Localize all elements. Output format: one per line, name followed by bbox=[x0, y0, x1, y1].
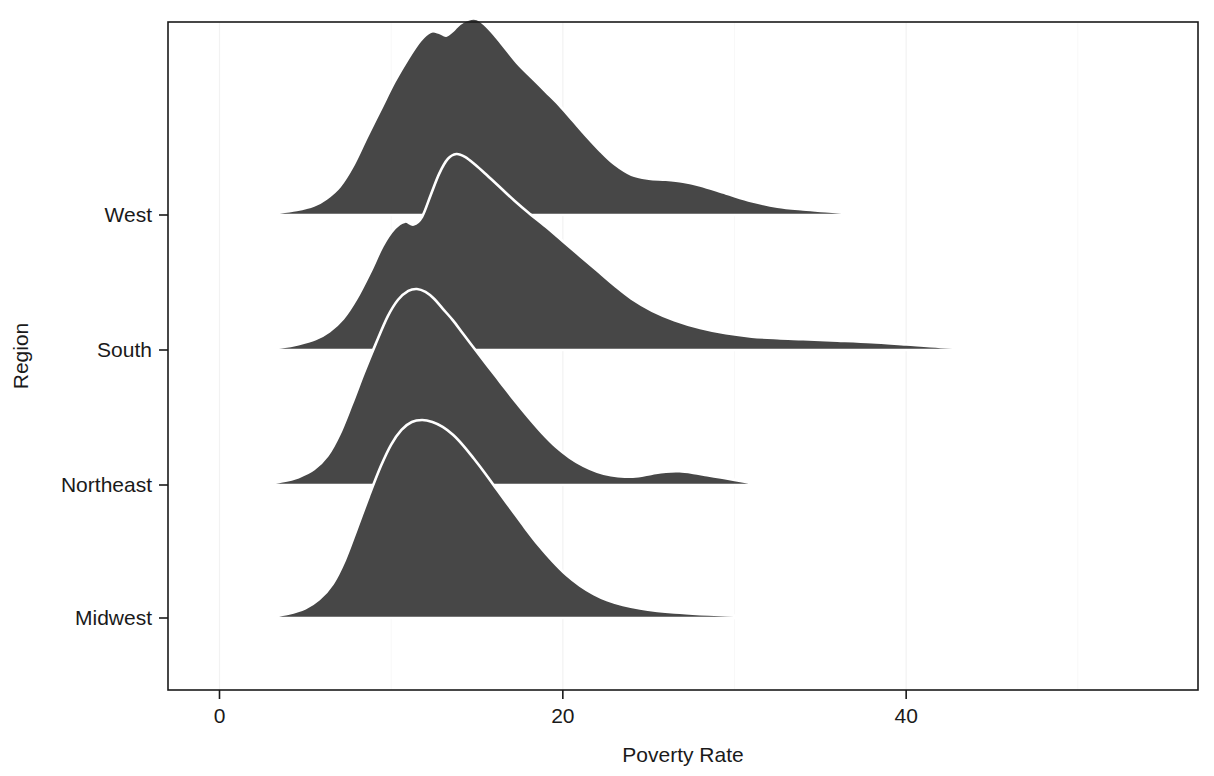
y-tick-label-south: South bbox=[97, 338, 152, 361]
x-axis-title: Poverty Rate bbox=[622, 743, 743, 766]
y-tick-label-midwest: Midwest bbox=[75, 606, 152, 629]
x-axis-ticks-group bbox=[220, 690, 907, 699]
x-axis-tick-labels-group: 02040 bbox=[214, 704, 918, 727]
x-tick-label-20: 20 bbox=[551, 704, 574, 727]
y-tick-label-northeast: Northeast bbox=[61, 473, 152, 496]
y-axis-tick-labels-group: WestSouthNortheastMidwest bbox=[61, 203, 152, 629]
y-axis-title: Region bbox=[9, 323, 32, 390]
ridgeline-chart-figure: WestSouthNortheastMidwest 02040 Poverty … bbox=[0, 0, 1214, 776]
y-tick-label-west: West bbox=[105, 203, 153, 226]
panel-group bbox=[168, 19, 1198, 690]
y-axis-ticks-group bbox=[159, 215, 168, 618]
x-tick-label-0: 0 bbox=[214, 704, 226, 727]
x-tick-label-40: 40 bbox=[894, 704, 917, 727]
panel-background bbox=[168, 22, 1198, 690]
plot-svg: WestSouthNortheastMidwest 02040 Poverty … bbox=[0, 0, 1214, 776]
